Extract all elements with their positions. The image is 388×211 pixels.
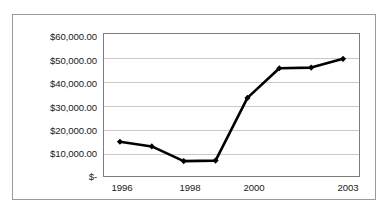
line-series [104,34,359,176]
chart-figure: $60,000.00 $50,000.00 $40,000.00 $30,000… [0,0,388,211]
data-point-2003 [340,56,346,62]
plot-area [103,33,360,177]
x-tick-label-2000: 2000 [244,182,265,193]
data-point-1996 [117,139,123,145]
y-tick-label-30000: $30,000.00 [0,102,97,113]
y-tick-label-50000: $50,000.00 [0,55,97,66]
x-tick-label-2003: 2003 [338,182,359,193]
x-tick-label-1998: 1998 [180,182,201,193]
y-tick-label-20000: $20,000.00 [0,125,97,136]
y-tick-label-0: $- [0,171,97,182]
x-tick-label-1996: 1996 [112,182,133,193]
y-tick-label-10000: $10,000.00 [0,148,97,159]
y-tick-label-60000: $60,000.00 [0,31,97,42]
y-tick-label-40000: $40,000.00 [0,78,97,89]
data-point-2002 [308,65,314,71]
